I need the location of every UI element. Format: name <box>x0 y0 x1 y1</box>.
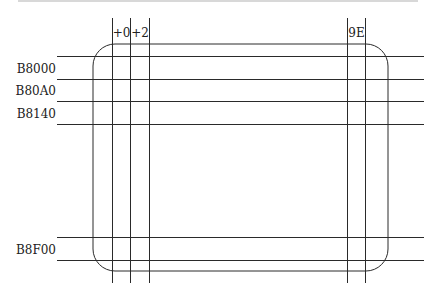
row-address-label: B8140 <box>17 107 56 121</box>
column-label: 9E <box>348 26 364 40</box>
column-offset-labels: +0+29E <box>113 26 365 40</box>
row-address-label: B8000 <box>17 62 56 76</box>
row-address-label: B8F00 <box>16 243 56 257</box>
memory-grid-diagram: +0+29E B8000B80A0B8140B8F00 <box>0 0 442 297</box>
screen-outline <box>93 44 388 271</box>
column-label: +2 <box>131 26 149 40</box>
column-boundaries <box>113 18 366 283</box>
row-address-labels: B8000B80A0B8140B8F00 <box>16 62 56 257</box>
row-address-label: B80A0 <box>16 84 56 98</box>
column-label: +0 <box>113 26 131 40</box>
